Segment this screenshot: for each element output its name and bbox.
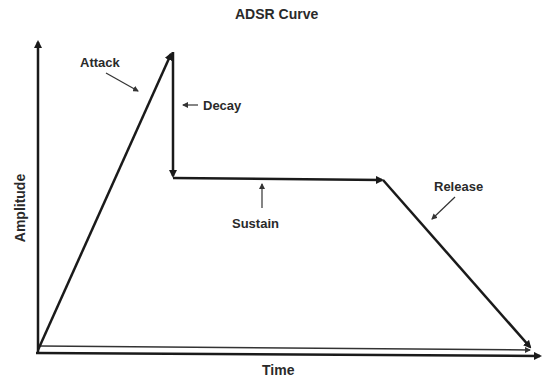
time-baseline [40, 346, 530, 350]
sustain-line [173, 178, 382, 180]
sustain-label: Sustain [232, 216, 279, 231]
release-label: Release [434, 179, 483, 194]
attack-pointer [106, 73, 138, 91]
attack-line [38, 54, 171, 350]
decay-label: Decay [203, 98, 241, 113]
attack-label: Attack [80, 55, 120, 70]
chart-title: ADSR Curve [235, 6, 318, 22]
release-pointer [432, 197, 455, 219]
x-axis [36, 353, 540, 356]
release-line [383, 180, 530, 347]
x-axis-label: Time [262, 362, 294, 378]
y-axis-label: Amplitude [12, 168, 28, 248]
